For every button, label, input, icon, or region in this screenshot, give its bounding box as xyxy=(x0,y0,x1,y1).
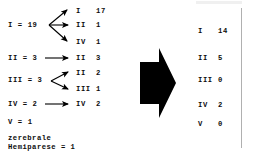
target-grade-2: II xyxy=(76,21,86,30)
source-item-5: V = 1 xyxy=(8,118,33,127)
source-item-2: II = 3 xyxy=(8,54,37,63)
source-item-4: IV = 2 xyxy=(8,100,37,109)
source-item-1: I = 19 xyxy=(8,21,37,30)
target-grade-3: IV xyxy=(76,38,86,47)
target-grade-6: III xyxy=(76,85,91,94)
result-grade-3: III xyxy=(198,76,213,85)
block-arrow-right-icon xyxy=(140,48,176,118)
result-count-5: 0 xyxy=(218,120,223,129)
target-count-7: 2 xyxy=(96,100,101,109)
target-count-5: 2 xyxy=(96,69,101,78)
result-grade-1: I xyxy=(198,27,203,36)
caption-line-2: Hemiparese = 1 xyxy=(8,143,75,153)
target-count-3: 1 xyxy=(96,38,101,47)
target-count-4: 3 xyxy=(96,54,101,63)
target-count-2: 1 xyxy=(96,21,101,30)
target-grade-1: I xyxy=(76,7,81,16)
result-count-1: 14 xyxy=(218,27,228,36)
target-grade-4: II xyxy=(76,54,86,63)
target-grade-7: IV xyxy=(76,100,86,109)
source-item-3: III = 3 xyxy=(8,76,42,85)
target-count-6: 1 xyxy=(96,85,101,94)
top-edge-artifact xyxy=(196,1,242,4)
right-vertical-rule xyxy=(241,8,242,148)
target-count-1: 17 xyxy=(96,7,106,16)
target-grade-5: II xyxy=(76,69,86,78)
result-count-2: 5 xyxy=(218,54,223,63)
result-grade-4: IV xyxy=(198,101,208,110)
result-count-3: 0 xyxy=(218,76,223,85)
result-grade-5: V xyxy=(198,120,203,129)
result-count-4: 2 xyxy=(218,101,223,110)
arrow-group-source-3 xyxy=(51,72,68,89)
transition-diagram-figure: I = 19 II = 3 III = 3 IV = 2 V = 1 I 17 … xyxy=(0,0,254,156)
result-grade-2: II xyxy=(198,54,208,63)
arrow-group-source-1 xyxy=(49,10,68,41)
